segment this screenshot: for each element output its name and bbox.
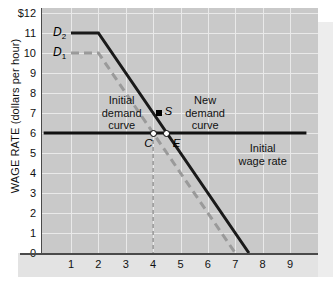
curve-label-base: D — [53, 45, 62, 59]
x-axis-tick-label: 1 — [61, 259, 81, 270]
curve-D1 — [71, 53, 235, 253]
marker-label-C: C — [144, 137, 152, 149]
y-axis-tick-label: 8 — [6, 88, 36, 99]
annotation-initial-wage-rate: Initial wage rate — [227, 142, 299, 167]
figure-shadow-right — [318, 22, 333, 277]
curve-label-base: D — [53, 25, 62, 39]
y-axis-tick-label: 1 — [6, 228, 36, 239]
plot-area: SCE Initial demand curveNew demand curve… — [42, 8, 318, 253]
curve-label-D1: D1 — [53, 45, 66, 61]
y-axis-tick-label: 5 — [6, 148, 36, 159]
y-axis-tick-label: 3 — [6, 188, 36, 199]
marker-label-E: E — [173, 137, 181, 149]
curve-label-subscript: 1 — [62, 52, 66, 61]
annotation-initial-demand-curve: Initial demand curve — [86, 94, 158, 132]
annotation-new-demand-curve: New demand curve — [169, 94, 241, 132]
x-axis-tick-label: 7 — [225, 259, 245, 270]
y-axis-tick-label: 10 — [6, 48, 36, 59]
x-axis-line — [20, 253, 318, 255]
y-axis-tick-label: $12 — [6, 8, 36, 19]
curve-label-D2: D2 — [53, 25, 66, 41]
chart-figure: WAGE RATE (dollars per hour) $1211109876… — [0, 0, 333, 282]
x-axis-tick-label: 2 — [88, 259, 108, 270]
curve-label-subscript: 2 — [62, 32, 66, 41]
y-axis-tick-label: 7 — [6, 108, 36, 119]
y-axis-tick-label: 9 — [6, 68, 36, 79]
x-axis-tick-label: 4 — [143, 259, 163, 270]
x-axis-tick-label: 9 — [280, 259, 300, 270]
x-axis-tick-label: 8 — [253, 259, 273, 270]
y-axis-tick-label: 11 — [6, 28, 36, 39]
y-axis-tick-label: 4 — [6, 168, 36, 179]
y-axis-tick-label: 6 — [6, 128, 36, 139]
x-axis-tick-label: 3 — [116, 259, 136, 270]
x-axis-tick-label: 6 — [198, 259, 218, 270]
y-axis-tick-label: 2 — [6, 208, 36, 219]
x-axis-tick-label: 5 — [171, 259, 191, 270]
